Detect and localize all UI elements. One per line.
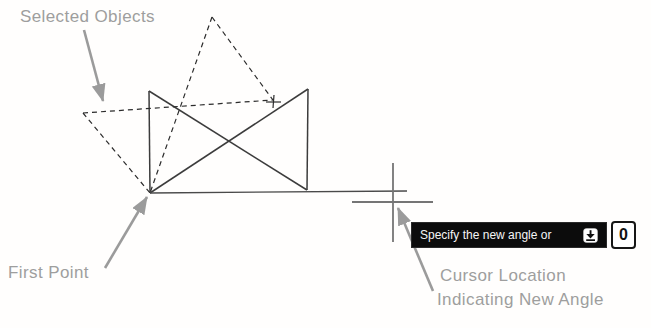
angle-input-field[interactable]: 0 xyxy=(611,221,636,249)
label-cursor-location-line1: Cursor Location xyxy=(440,266,566,286)
object-line xyxy=(150,89,308,193)
point-cross-marker xyxy=(273,95,274,108)
selection-preview-line xyxy=(83,113,150,193)
label-first-point: First Point xyxy=(8,263,89,283)
rubber-band-baseline xyxy=(150,191,407,193)
label-cursor-location-line2: Indicating New Angle xyxy=(437,290,604,310)
dynamic-input-tooltip: Specify the new angle or xyxy=(411,222,607,248)
figure-rotate-diagram: Selected Objects First Point Cursor Loca… xyxy=(0,0,651,328)
annotation-arrow xyxy=(105,197,147,268)
object-line xyxy=(307,89,308,190)
object-line xyxy=(149,91,150,193)
annotation-arrow xyxy=(398,208,433,291)
annotation-arrow xyxy=(84,30,103,101)
selection-preview-line xyxy=(83,100,273,113)
label-selected-objects: Selected Objects xyxy=(20,7,155,27)
tooltip-prompt-text: Specify the new angle or xyxy=(420,228,551,242)
down-arrow-key-icon xyxy=(583,228,598,243)
selection-preview-line xyxy=(212,17,273,100)
